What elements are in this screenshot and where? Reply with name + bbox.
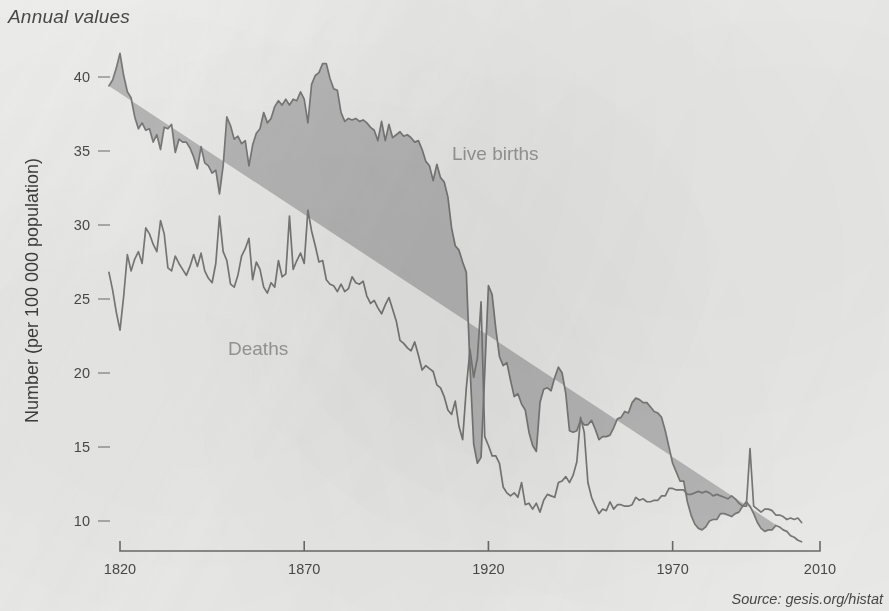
x-tick-label: 1920 xyxy=(472,561,504,577)
x-axis-ticks: 18201870192019702010 xyxy=(104,541,836,577)
x-tick-label: 1820 xyxy=(104,561,136,577)
y-tick-label: 15 xyxy=(74,439,90,455)
y-tick-label: 40 xyxy=(74,69,90,85)
x-axis: 18201870192019702010 xyxy=(104,541,836,577)
x-tick-label: 1970 xyxy=(656,561,688,577)
y-axis-title: Number (per 100 000 population) xyxy=(22,76,43,506)
y-tick-label: 25 xyxy=(74,291,90,307)
page-title: Annual values xyxy=(8,6,130,28)
series-label-live-births: Live births xyxy=(452,143,539,164)
y-tick-label: 30 xyxy=(74,217,90,233)
y-axis-ticks: 10152025303540 xyxy=(74,69,110,529)
chart-canvas: 10152025303540 18201870192019702010 Live… xyxy=(0,0,889,611)
x-axis-line xyxy=(120,541,820,551)
y-tick-label: 10 xyxy=(74,513,90,529)
source-note: Source: gesis.org/histat xyxy=(731,591,883,607)
x-tick-label: 1870 xyxy=(288,561,320,577)
y-tick-label: 35 xyxy=(74,143,90,159)
series-label-deaths: Deaths xyxy=(228,338,288,359)
band-area-group xyxy=(109,53,802,541)
x-tick-label: 2010 xyxy=(804,561,836,577)
y-tick-label: 20 xyxy=(74,365,90,381)
band-fill-between-series xyxy=(109,53,802,541)
